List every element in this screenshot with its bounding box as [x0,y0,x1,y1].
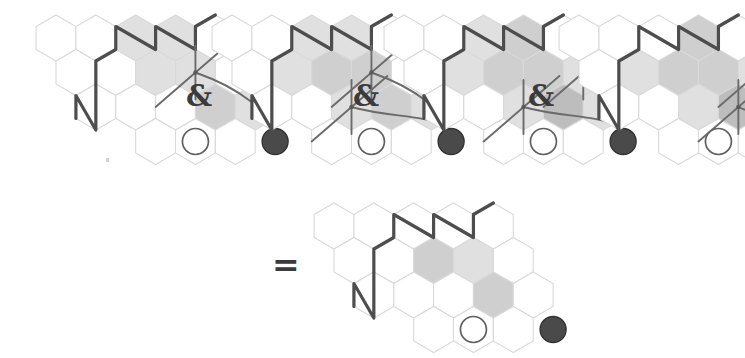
equals-operator: = [272,248,300,281]
white-stone[interactable] [705,129,731,155]
board-result [300,196,500,358]
and-operator-1: & [186,82,212,111]
board-term-4 [545,8,745,183]
link-node [193,70,197,74]
and-operator-2: & [353,82,379,111]
white-stone[interactable] [460,317,486,343]
and-operator-3: & [528,82,554,111]
black-stone[interactable] [540,317,566,343]
link-node [736,105,740,109]
scan-artifact-speck [106,158,109,162]
link-node [521,105,525,109]
